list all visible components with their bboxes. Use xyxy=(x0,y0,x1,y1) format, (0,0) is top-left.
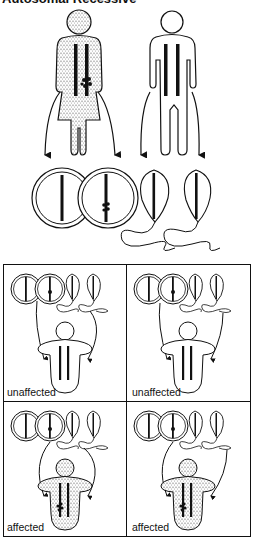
chromosome xyxy=(74,44,78,96)
father-figure xyxy=(150,11,196,155)
parents-and-gametes-diagram xyxy=(0,0,259,264)
outcome-label-top-right: unaffected xyxy=(132,386,181,398)
mother-figure xyxy=(56,10,102,155)
outcome-label-bottom-left: affected xyxy=(7,521,44,533)
outcome-label-bottom-right: affected xyxy=(132,521,169,533)
panel-top-right xyxy=(134,274,231,393)
outcome-label-top-left: unaffected xyxy=(7,386,56,398)
chromosome xyxy=(164,44,168,96)
egg-mutant xyxy=(78,168,138,228)
chromosome-mutant xyxy=(85,44,89,96)
outcome-grid: unaffected unaffected affected affected xyxy=(3,264,251,537)
chromosome xyxy=(176,44,180,96)
panel-top-left xyxy=(11,274,108,393)
panel-bottom-right xyxy=(134,411,231,530)
sperm-2 xyxy=(164,170,220,251)
outcome-panels-diagram xyxy=(4,265,252,538)
panel-bottom-left xyxy=(11,411,108,530)
